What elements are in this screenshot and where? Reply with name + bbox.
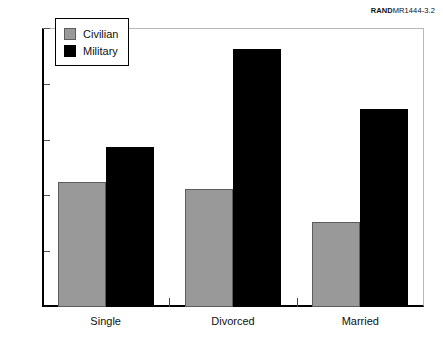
bar-married-civilian	[312, 222, 360, 307]
bar-divorced-civilian	[185, 189, 233, 307]
x-axis-group-separator	[297, 298, 298, 307]
military-swatch	[64, 45, 76, 57]
x-axis-label-divorced: Divorced	[211, 315, 254, 327]
x-axis-label-married: Married	[342, 315, 379, 327]
bar-single-civilian	[58, 182, 106, 307]
bar-chart-figure: RANDMR1444-3.2 0510152025 SingleDivorced…	[0, 0, 443, 345]
source-tag: RANDMR1444-3.2	[371, 6, 435, 15]
source-tag-code: MR1444-3.2	[393, 6, 435, 15]
bar-divorced-military	[233, 49, 281, 307]
civilian-swatch	[64, 28, 76, 40]
source-tag-brand: RAND	[371, 6, 393, 15]
legend-entry-military: Military	[64, 42, 118, 59]
x-axis-group-separator	[169, 298, 170, 307]
legend-entry-civilian: Civilian	[64, 25, 118, 42]
legend: CivilianMilitary	[55, 18, 129, 66]
x-axis-label-single: Single	[90, 315, 121, 327]
legend-label-civilian: Civilian	[83, 28, 118, 40]
legend-label-military: Military	[83, 45, 118, 57]
bar-single-military	[106, 147, 154, 307]
bar-married-military	[360, 109, 408, 307]
